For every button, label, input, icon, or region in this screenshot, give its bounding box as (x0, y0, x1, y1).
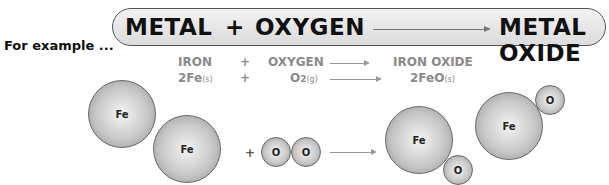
banner-reactant-oxygen: OXYGEN (255, 14, 365, 40)
atoms-arrow-icon (330, 152, 375, 153)
iron-oxide-iron-atom-2: Fe (475, 92, 543, 160)
word-plus: + (240, 55, 250, 69)
example-label: For example ... (4, 38, 114, 53)
banner-product-metal-oxide: METAL OXIDE (499, 14, 605, 66)
symbol-plus: + (240, 71, 250, 85)
oxygen-atom-1: O (261, 137, 291, 167)
symbol-reactant-oxygen: O2(g) (290, 71, 318, 85)
word-arrow-icon (330, 63, 368, 64)
oxygen-atom-2: O (291, 137, 321, 167)
iron-oxide-oxygen-atom-2: O (535, 85, 565, 115)
banner-arrow-icon (373, 29, 489, 30)
iron-oxide-oxygen-atom-1: O (443, 155, 473, 185)
symbol-reactant-iron: 2Fe(s) (178, 71, 213, 85)
iron-atom-1: Fe (88, 80, 156, 148)
symbol-reactant-oxygen-formula: O (290, 71, 300, 85)
banner-reactant-metal: METAL (125, 14, 212, 40)
symbol-reactant-oxygen-state: (g) (306, 75, 317, 84)
iron-atom-2: Fe (153, 115, 221, 183)
atoms-plus: + (245, 146, 255, 160)
symbol-reactant-iron-formula: 2Fe (178, 71, 202, 85)
banner-plus: + (225, 14, 245, 40)
iron-oxide-iron-atom-1: Fe (385, 106, 453, 174)
symbol-product-state: (s) (444, 75, 454, 84)
word-product-iron-oxide: IRON OXIDE (393, 55, 473, 69)
word-reactant-oxygen: OXYGEN (268, 55, 324, 69)
symbol-product-iron-oxide: 2FeO(s) (410, 71, 455, 85)
general-equation-banner: METAL + OXYGEN METAL OXIDE (112, 8, 606, 46)
word-reactant-iron: IRON (178, 55, 212, 69)
symbol-product-formula: 2FeO (410, 71, 444, 85)
symbol-reactant-iron-state: (s) (202, 75, 212, 84)
symbol-arrow-icon (330, 79, 380, 80)
